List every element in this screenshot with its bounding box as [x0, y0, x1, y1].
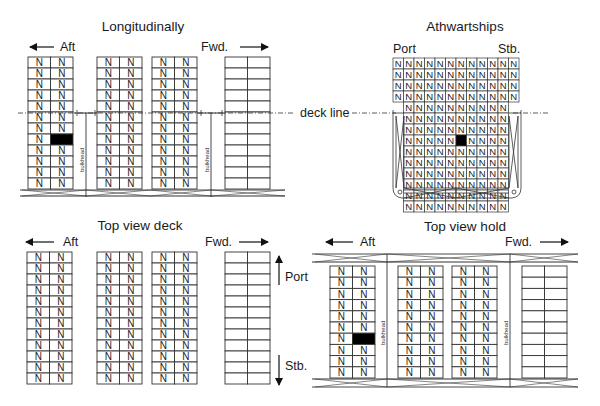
svg-text:N: N: [468, 157, 475, 168]
top-view-deck-bays: NNNNNNNNNNNNNNNNNNNNNNNNNNNNNNNNNNNNNNNN…: [27, 252, 270, 384]
svg-text:N: N: [458, 168, 465, 179]
svg-text:N: N: [182, 252, 189, 263]
svg-text:N: N: [458, 58, 465, 69]
svg-text:N: N: [57, 263, 64, 274]
svg-text:N: N: [426, 58, 433, 69]
svg-text:N: N: [57, 285, 64, 296]
svg-text:N: N: [405, 91, 412, 102]
svg-text:N: N: [160, 145, 167, 156]
container-stack: NNNNNNNNNNNNNNNNNNNNNNNN: [152, 57, 197, 189]
svg-text:N: N: [105, 123, 112, 134]
container-slot: [225, 263, 248, 274]
svg-text:N: N: [160, 156, 167, 167]
bulkhead-fwd: bulkhead: [204, 113, 211, 197]
svg-text:N: N: [57, 329, 64, 340]
svg-text:N: N: [458, 69, 465, 80]
svg-text:N: N: [468, 102, 475, 113]
svg-text:N: N: [479, 157, 486, 168]
svg-text:N: N: [57, 373, 64, 384]
svg-text:N: N: [105, 329, 112, 340]
container-slot: [225, 57, 248, 68]
svg-text:N: N: [57, 274, 64, 285]
svg-text:N: N: [500, 80, 507, 91]
svg-text:N: N: [458, 113, 465, 124]
svg-text:N: N: [35, 296, 42, 307]
svg-text:N: N: [479, 201, 486, 212]
aft-label: Aft: [360, 235, 376, 249]
container-slot: [225, 274, 248, 285]
svg-text:N: N: [416, 168, 423, 179]
svg-text:N: N: [426, 168, 433, 179]
svg-text:N: N: [437, 80, 444, 91]
container-slot: [248, 167, 271, 178]
svg-text:N: N: [105, 307, 112, 318]
svg-text:N: N: [460, 356, 467, 367]
svg-text:N: N: [58, 123, 65, 134]
svg-text:N: N: [182, 362, 189, 373]
svg-text:N: N: [105, 145, 112, 156]
svg-text:N: N: [360, 367, 367, 378]
svg-text:N: N: [160, 252, 167, 263]
aft-label: Aft: [60, 40, 76, 54]
svg-text:N: N: [338, 367, 345, 378]
svg-text:N: N: [500, 190, 507, 201]
svg-text:N: N: [447, 124, 454, 135]
svg-text:N: N: [58, 57, 65, 68]
svg-text:N: N: [35, 373, 42, 384]
container-slot: [248, 263, 271, 274]
svg-text:N: N: [500, 124, 507, 135]
svg-text:N: N: [458, 146, 465, 157]
svg-text:N: N: [416, 102, 423, 113]
svg-text:N: N: [360, 345, 367, 356]
svg-text:N: N: [182, 285, 189, 296]
svg-text:N: N: [127, 307, 134, 318]
svg-text:N: N: [182, 145, 189, 156]
svg-text:N: N: [58, 90, 65, 101]
svg-text:N: N: [510, 69, 517, 80]
svg-text:N: N: [458, 91, 465, 102]
svg-text:N: N: [447, 91, 454, 102]
svg-text:N: N: [182, 134, 189, 145]
svg-text:N: N: [479, 80, 486, 91]
svg-text:N: N: [57, 252, 64, 263]
svg-text:N: N: [35, 307, 42, 318]
container-slot: [225, 296, 248, 307]
container-slot: [225, 156, 248, 167]
svg-text:N: N: [447, 135, 454, 146]
svg-text:N: N: [105, 167, 112, 178]
svg-text:N: N: [36, 68, 43, 79]
container-slot: [545, 367, 568, 378]
svg-text:N: N: [127, 329, 134, 340]
svg-text:N: N: [127, 178, 134, 189]
svg-text:N: N: [437, 91, 444, 102]
svg-text:N: N: [360, 289, 367, 300]
svg-text:N: N: [105, 178, 112, 189]
svg-text:N: N: [437, 124, 444, 135]
svg-text:N: N: [447, 146, 454, 157]
svg-text:N: N: [426, 69, 433, 80]
svg-text:N: N: [182, 178, 189, 189]
svg-text:N: N: [36, 101, 43, 112]
svg-text:N: N: [428, 311, 435, 322]
container-slot: [225, 307, 248, 318]
svg-text:N: N: [460, 300, 467, 311]
svg-text:N: N: [338, 345, 345, 356]
svg-text:N: N: [500, 201, 507, 212]
port-label: Port: [285, 270, 308, 284]
bulkhead-aft-label: bulkhead: [380, 321, 386, 345]
svg-text:N: N: [57, 296, 64, 307]
container-slot: [248, 112, 271, 123]
svg-text:N: N: [58, 79, 65, 90]
svg-text:bulkhead: bulkhead: [204, 148, 210, 172]
svg-text:N: N: [460, 322, 467, 333]
container-slot: [225, 340, 248, 351]
container-slot: [545, 333, 568, 344]
svg-text:N: N: [182, 112, 189, 123]
svg-text:N: N: [36, 134, 43, 145]
svg-text:N: N: [160, 274, 167, 285]
svg-text:N: N: [500, 113, 507, 124]
svg-text:N: N: [127, 134, 134, 145]
container-slot: [248, 340, 271, 351]
svg-text:N: N: [426, 135, 433, 146]
highlighted-container: [353, 333, 376, 344]
